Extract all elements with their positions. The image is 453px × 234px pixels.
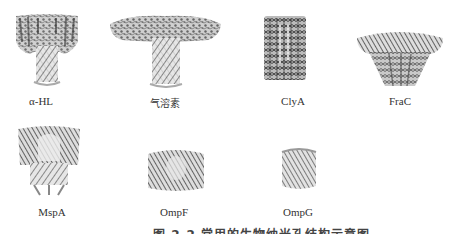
frac-structure-image [355, 28, 445, 90]
alpha-hl-structure-image [12, 12, 82, 90]
ompf-structure-image [146, 148, 206, 192]
panel-label-ompf: OmpF [160, 206, 188, 218]
panel-label-aerolysin: 气溶素 [150, 95, 180, 110]
panel-label-frac: FraC [389, 95, 411, 107]
ompg-structure-image [280, 146, 318, 192]
panel-label-clya: ClyA [281, 95, 305, 107]
mspa-structure-image [16, 125, 82, 197]
panel-label-ompg: OmpG [283, 206, 313, 218]
figure-caption: 图 2-2 常用的生物纳米孔结构示意图 [153, 225, 370, 234]
clya-structure-image [262, 14, 308, 84]
aerolysin-structure-image [108, 12, 223, 88]
panel-label-alpha-hl: α-HL [29, 95, 53, 107]
panel-label-mspa: MspA [38, 206, 66, 218]
